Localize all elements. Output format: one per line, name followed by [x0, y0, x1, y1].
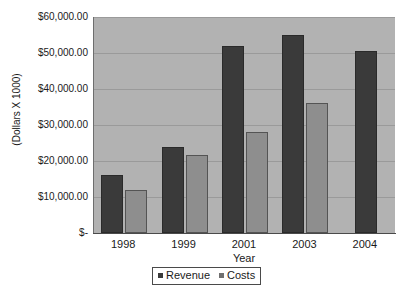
x-axis-tick-label: 2003 — [274, 238, 334, 250]
x-axis-tick-label: 1998 — [93, 238, 153, 250]
bar-group — [275, 17, 335, 233]
bar-costs-2001 — [246, 132, 268, 233]
x-axis-tick-label: 2001 — [214, 238, 274, 250]
bar-revenue-1999 — [162, 147, 184, 233]
bar-group — [215, 17, 275, 233]
bar-revenue-1998 — [101, 175, 123, 233]
bar-group — [154, 17, 214, 233]
y-axis-title: (Dollars X 1000) — [11, 50, 22, 170]
x-axis-tick-label: 1999 — [153, 238, 213, 250]
bar-revenue-2003 — [282, 35, 304, 233]
legend-label: Costs — [227, 269, 255, 282]
y-axis-tick-label: $10,000.00 — [2, 192, 88, 202]
plot-area — [93, 17, 395, 233]
bar-revenue-2001 — [222, 46, 244, 233]
legend-item-costs: Costs — [219, 269, 255, 282]
x-axis-tick-label: 2004 — [335, 238, 395, 250]
x-axis-line — [93, 233, 396, 234]
legend-swatch-costs-icon — [219, 273, 224, 278]
bar-costs-1998 — [125, 190, 147, 233]
x-axis-title: Year — [93, 252, 395, 264]
bar-costs-2003 — [306, 103, 328, 233]
bars-layer — [94, 17, 395, 233]
bar-chart: $-$10,000.00$20,000.00$30,000.00$40,000.… — [0, 0, 410, 291]
bar-revenue-2004 — [355, 51, 377, 233]
bar-group — [336, 17, 396, 233]
bar-costs-1999 — [186, 155, 208, 233]
chart-legend: RevenueCosts — [152, 267, 261, 285]
y-axis-tick-label: $60,000.00 — [2, 12, 88, 22]
y-axis-tick-label: $- — [2, 228, 88, 238]
legend-swatch-revenue-icon — [158, 273, 163, 278]
legend-item-revenue: Revenue — [158, 269, 210, 282]
legend-label: Revenue — [166, 269, 210, 282]
bar-group — [94, 17, 154, 233]
